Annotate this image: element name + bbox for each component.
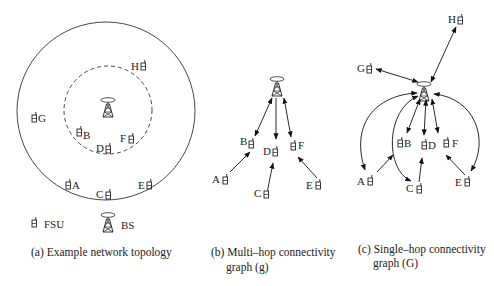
base-station-tower-icon <box>101 213 115 232</box>
node-label: A <box>357 175 365 187</box>
handset-icon <box>66 179 71 189</box>
handset-icon <box>367 63 372 73</box>
handset-icon <box>458 14 463 24</box>
network-diagram: H G B F D A C E FSU BS (a) Example netwo… <box>0 0 494 286</box>
node-H: H <box>131 60 146 72</box>
node-B: B <box>77 126 90 141</box>
handset-icon <box>316 179 321 189</box>
caption-b-line2: graph (g) <box>226 261 269 274</box>
handset-icon <box>106 143 111 153</box>
panel-b-multihop-graph: B D F A C E (b) Multi–hop connectivity g… <box>211 77 336 274</box>
handset-icon <box>417 183 422 193</box>
node-E: E <box>306 179 321 191</box>
node-F: F <box>120 132 134 144</box>
panel-a-network-topology: H G B F D A C E FSU BS (a) Example netwo… <box>17 22 195 259</box>
node-D: D <box>263 145 278 157</box>
node-label: G <box>357 62 365 74</box>
handset-icon <box>368 175 373 185</box>
node-label: F <box>120 132 126 144</box>
node-label: H <box>131 60 139 72</box>
caption-c-line2: graph (G) <box>373 257 418 270</box>
node-A: A <box>66 179 80 191</box>
node-A: A <box>357 175 373 187</box>
node-label: G <box>38 112 46 124</box>
node-label: C <box>254 187 261 199</box>
node-label: E <box>455 176 462 188</box>
node-label: D <box>263 145 271 157</box>
node-label: H <box>448 13 456 25</box>
handset-icon <box>291 140 296 150</box>
node-B: B <box>398 137 411 149</box>
legend-fsu-label: FSU <box>44 218 64 230</box>
node-C: C <box>254 187 269 199</box>
base-station-tower-icon <box>101 98 115 117</box>
caption-b-line1: (b) Multi–hop connectivity <box>211 246 336 259</box>
node-label: C <box>96 188 103 200</box>
node-H: H <box>448 13 463 25</box>
node-label: A <box>72 179 80 191</box>
legend: FSU BS <box>32 213 134 232</box>
handset-icon <box>77 126 82 136</box>
node-label: D <box>428 139 436 151</box>
node-D: D <box>96 142 111 154</box>
handset-icon <box>129 133 134 143</box>
caption-a: (a) Example network topology <box>31 246 172 259</box>
node-A: A <box>212 173 228 185</box>
node-label: D <box>96 142 104 154</box>
handset-icon <box>273 146 278 156</box>
node-E: E <box>455 176 470 188</box>
base-station-tower-icon <box>270 77 284 96</box>
node-label: E <box>306 179 313 191</box>
handset-icon <box>264 188 269 198</box>
node-F: F <box>291 139 304 151</box>
legend-bs-label: BS <box>121 219 134 231</box>
node-label: F <box>452 137 458 149</box>
handset-icon <box>398 137 403 147</box>
node-E: E <box>138 179 152 191</box>
node-label: B <box>83 129 90 141</box>
handset-icon <box>249 138 254 148</box>
node-B: B <box>240 135 254 148</box>
edges <box>361 27 480 182</box>
node-label: A <box>212 173 220 185</box>
node-label: C <box>406 182 413 194</box>
handset-icon <box>106 189 111 199</box>
node-label: E <box>138 179 145 191</box>
handset-icon <box>141 60 146 70</box>
panel-c-singlehop-graph: H G B D F A C E (c) Single–hop connectiv… <box>357 13 486 270</box>
node-C: C <box>96 188 111 200</box>
base-station-tower-icon <box>417 82 431 101</box>
handset-icon <box>32 112 37 122</box>
inner-coverage-circle-dashed <box>64 66 152 154</box>
node-label: F <box>298 139 304 151</box>
node-F: F <box>444 137 458 149</box>
caption-c-line1: (c) Single–hop connectivity <box>358 243 486 256</box>
node-G: G <box>32 112 46 124</box>
node-C: C <box>406 182 422 194</box>
node-label: B <box>404 137 411 149</box>
node-D: D <box>422 139 436 151</box>
handset-icon <box>32 217 37 227</box>
node-label: B <box>240 135 247 147</box>
outer-coverage-circle <box>17 22 195 200</box>
handset-icon <box>422 139 427 149</box>
handset-icon <box>223 174 228 184</box>
handset-icon <box>465 176 470 186</box>
handset-icon <box>444 137 449 147</box>
node-G: G <box>357 62 372 74</box>
